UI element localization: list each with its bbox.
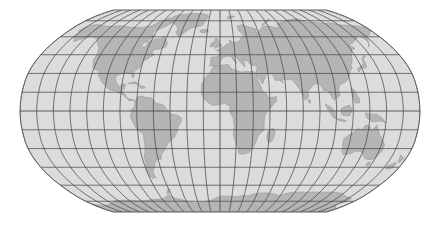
world-map-figure [0,0,440,231]
world-map-svg [0,0,440,231]
